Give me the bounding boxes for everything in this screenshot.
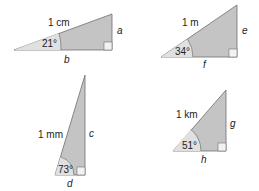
adjacent-label: h: [201, 154, 207, 165]
opposite-label: g: [230, 118, 236, 129]
triangle-1cm: 1 cm 21° a b: [14, 14, 123, 65]
angle-label: 73°: [58, 164, 73, 175]
right-angle-marker: [77, 167, 85, 175]
hypotenuse-label: 1 mm: [38, 129, 63, 140]
right-angle-marker: [218, 143, 226, 151]
right-angle-marker: [104, 42, 112, 50]
opposite-label: a: [117, 25, 123, 36]
triangles-diagram: 1 cm 21° a b 1 m 34° e f 1 mm 73° c d 1 …: [0, 0, 259, 191]
adjacent-label: f: [203, 59, 207, 70]
adjacent-label: b: [64, 54, 70, 65]
right-angle-marker: [229, 49, 237, 57]
hypotenuse-label: 1 km: [176, 109, 198, 120]
angle-label: 34°: [175, 46, 190, 57]
hypotenuse-label: 1 cm: [48, 17, 70, 28]
triangle-1m: 1 m 34° e f: [161, 5, 248, 70]
angle-label: 51°: [182, 140, 197, 151]
triangle-1m-body: [161, 5, 237, 57]
adjacent-label: d: [67, 178, 73, 189]
opposite-label: c: [89, 128, 94, 139]
hypotenuse-label: 1 m: [182, 17, 199, 28]
angle-label: 21°: [42, 38, 57, 49]
opposite-label: e: [242, 25, 248, 36]
triangle-1km: 1 km 51° g h: [173, 90, 236, 165]
triangle-1mm-body: [55, 75, 85, 175]
triangle-1mm: 1 mm 73° c d: [38, 75, 94, 189]
